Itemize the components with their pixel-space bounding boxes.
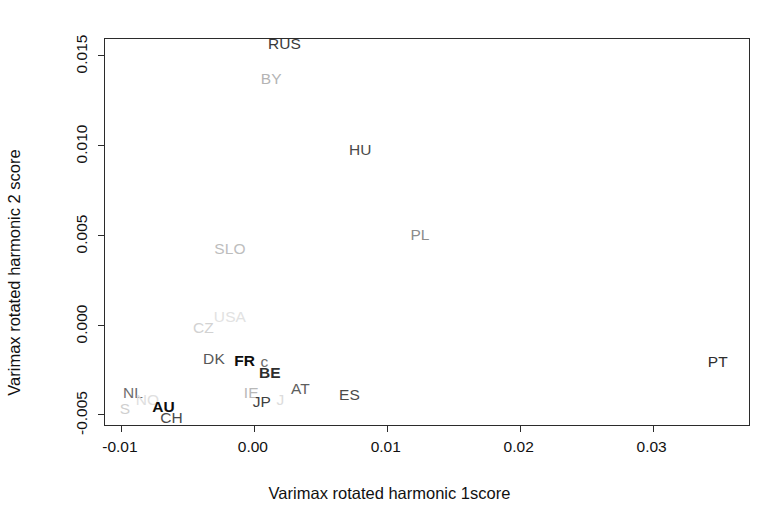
- y-axis-tick-mark: [98, 235, 105, 236]
- data-point-label: ES: [339, 387, 360, 403]
- data-point-label: PT: [708, 355, 728, 371]
- y-axis-tick-mark: [98, 145, 105, 146]
- data-point-label: RUS: [268, 37, 301, 53]
- x-axis-tick-mark: [520, 425, 521, 432]
- data-point-label: CH: [160, 410, 183, 426]
- data-point-label: AT: [291, 382, 310, 398]
- x-axis-tick-label: 0.02: [504, 438, 534, 456]
- y-axis-title: Varimax rotated harmonic 2 score: [5, 149, 24, 395]
- plot-data-area: RUSBYHUPLSLOUSACZDKFRcBEATESPTNLNOIEJPJS…: [105, 39, 749, 425]
- y-axis-tick-label: 0.010: [73, 125, 91, 164]
- x-axis-title: Varimax rotated harmonic 1score: [0, 484, 779, 503]
- y-axis-tick-label: -0.005: [73, 391, 91, 435]
- data-point-label: SLO: [214, 241, 245, 257]
- data-point-label: JP: [253, 394, 271, 410]
- x-axis-tick-mark: [121, 425, 122, 432]
- data-point-label: J: [277, 392, 285, 408]
- y-axis-tick-mark: [98, 414, 105, 415]
- x-axis-tick-label: 0.03: [637, 438, 667, 456]
- x-axis-tick-mark: [653, 425, 654, 432]
- y-axis-tick-label: 0.000: [73, 304, 91, 343]
- data-point-label: FR: [234, 353, 255, 369]
- y-axis-tick-mark: [98, 325, 105, 326]
- data-point-label: USA: [214, 310, 246, 326]
- scatter-plot-figure: RUSBYHUPLSLOUSACZDKFRcBEATESPTNLNOIEJPJS…: [0, 0, 779, 526]
- plot-frame: RUSBYHUPLSLOUSACZDKFRcBEATESPTNLNOIEJPJS…: [104, 38, 750, 426]
- y-axis-tick-label: 0.005: [73, 214, 91, 253]
- x-axis-tick-mark: [387, 425, 388, 432]
- x-axis-tick-label: -0.01: [102, 438, 137, 456]
- data-point-label: BE: [259, 365, 281, 381]
- data-point-label: BY: [261, 71, 282, 87]
- x-axis-tick-label: 0.01: [371, 438, 401, 456]
- data-point-label: DK: [203, 351, 225, 367]
- data-point-label: S: [120, 401, 130, 417]
- y-axis-tick-label: 0.015: [73, 35, 91, 74]
- y-axis-tick-mark: [98, 55, 105, 56]
- data-point-label: CZ: [193, 320, 214, 336]
- data-point-label: HU: [349, 143, 372, 159]
- x-axis-tick-mark: [254, 425, 255, 432]
- x-axis-tick-label: 0.00: [238, 438, 268, 456]
- data-point-label: PL: [410, 227, 429, 243]
